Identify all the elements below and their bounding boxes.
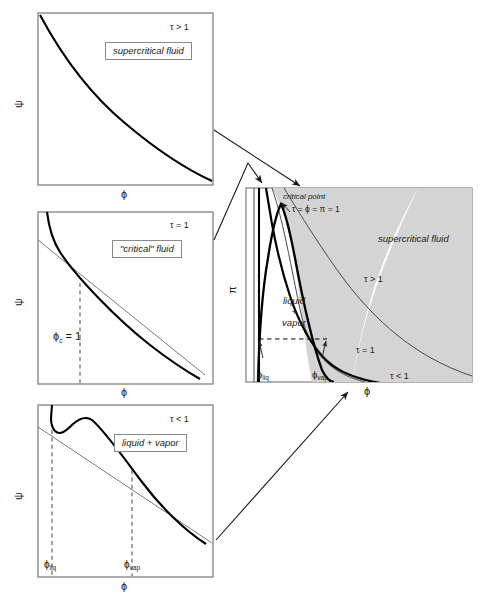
tau-label-critical: τ = 1 (170, 220, 189, 230)
isotherm-above-label: τ > 1 (364, 274, 383, 284)
phi-liq-symbol-panel3: ϕ (44, 559, 50, 570)
panel-supercritical-frame (38, 13, 213, 185)
panel-supercritical (38, 13, 213, 185)
panel-critical (38, 212, 213, 384)
phi-liq-label-main: ϕliq (257, 364, 269, 382)
supercritical-region-label: supercritical fluid (378, 234, 449, 245)
phi-liq-label-panel3: ϕliq (44, 554, 56, 572)
phi-vap-label-main: ϕvap (312, 364, 328, 382)
phi-c-subscript: c (59, 337, 62, 344)
y-axis-label-panel1: ψ (12, 100, 24, 108)
tau-label-supercritical: τ > 1 (170, 22, 189, 32)
isotherm-below-label: τ < 1 (390, 371, 409, 381)
phi-liq-subscript-panel3: liq (50, 564, 57, 571)
phi-liq-subscript-main: liq (262, 374, 269, 381)
panel-critical-frame (38, 212, 213, 384)
phi-c-value: = 1 (65, 330, 81, 342)
isotherm-critical-label: τ = 1 (356, 345, 375, 355)
two-phase-region-label: liquid + vapor (272, 296, 316, 329)
panel-liquid-vapor (38, 405, 213, 577)
phi-vap-subscript-panel3: vap (130, 564, 140, 571)
x-axis-label-main: ϕ (364, 385, 370, 397)
panel-phase-diagram (246, 188, 472, 393)
two-phase-line1: liquid (283, 295, 305, 306)
two-phase-line2: + (291, 306, 297, 317)
arrow-liquidvapor-to-main (216, 392, 348, 540)
x-axis-label-panel3: ϕ (121, 580, 127, 592)
figure-canvas (0, 0, 482, 606)
phi-vap-subscript-main: vap (317, 374, 327, 381)
box-label-critical-fluid: "critical" fluid (112, 240, 182, 258)
arrow-supercritical-to-main (214, 130, 300, 186)
phi-vap-label-panel3: ϕvap (124, 554, 140, 572)
phi-vap-symbol-panel3: ϕ (124, 559, 130, 570)
y-axis-label-main: π (226, 286, 238, 294)
phi-c-label: ϕc= 1 (53, 326, 81, 344)
y-axis-label-panel3: ψ (12, 492, 24, 500)
two-phase-line3: vapor (282, 317, 306, 328)
critical-point-equation: τ = ϕ = π = 1 (292, 204, 340, 214)
box-label-supercritical-fluid: supercritical fluid (105, 42, 192, 60)
box-label-liquid-vapor: liquid + vapor (114, 434, 187, 452)
x-axis-label-panel1: ϕ (121, 188, 127, 200)
x-axis-label-panel2: ϕ (121, 386, 127, 398)
tau-label-liquid-vapor: τ < 1 (170, 414, 189, 424)
critical-point-label: critical point (283, 192, 325, 201)
y-axis-label-panel2: ψ (12, 298, 24, 306)
